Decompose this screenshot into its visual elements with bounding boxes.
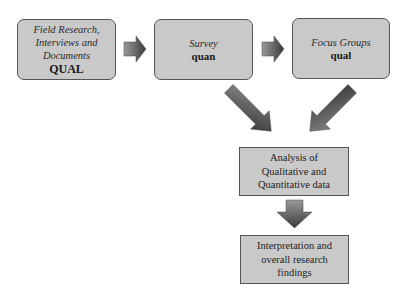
node-label: findings [277, 266, 311, 280]
node-label: Interpretation and [257, 239, 332, 253]
arrow-right-icon [124, 36, 146, 62]
node-survey: Survey quan [154, 19, 253, 80]
arrow-down-icon [277, 200, 312, 228]
arrow-right-icon [262, 36, 284, 62]
node-label: Focus Groups [311, 36, 370, 49]
node-label: Qualitative and [262, 165, 326, 179]
node-label: overall research [261, 253, 328, 267]
node-label: Documents [43, 49, 90, 62]
node-label: Quantitative data [258, 178, 330, 192]
node-analysis: Analysis of Qualitative and Quantitative… [239, 147, 349, 196]
node-tag: QUAL [49, 62, 84, 76]
node-label: Survey [189, 37, 218, 50]
node-label: Field Research, [33, 23, 99, 36]
arrow-down-left-icon [301, 80, 362, 141]
node-label: Interviews and [35, 36, 97, 49]
node-field-research: Field Research, Interviews and Documents… [17, 19, 116, 80]
node-tag: quan [192, 50, 216, 63]
node-focus-groups: Focus Groups qual [292, 18, 390, 79]
node-tag: qual [331, 49, 352, 62]
node-interpretation: Interpretation and overall research find… [240, 235, 349, 284]
node-label: Analysis of [270, 151, 318, 165]
arrow-down-right-icon [220, 80, 281, 141]
